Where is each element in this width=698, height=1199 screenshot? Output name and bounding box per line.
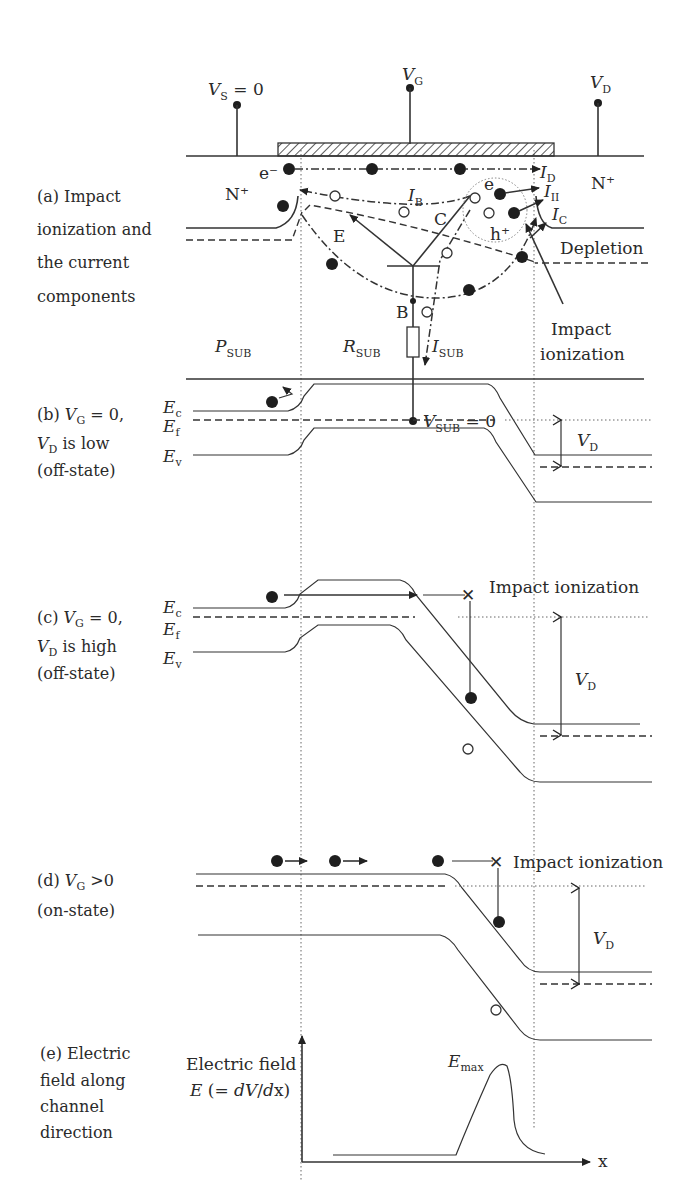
panel-a-device-cross-section: (a) Impact ionization and the current co… [37, 64, 648, 435]
substrate-contact-dot [409, 417, 417, 425]
drain-n-plus: N⁺ [591, 173, 615, 193]
panel-c-band-diagram: (c) VG = 0, VD is high (off-state) Ec Ef… [37, 577, 652, 782]
ev-label-b: Ev [162, 446, 182, 469]
electron-label: e⁻ [259, 163, 278, 183]
substrate-terminal-label: VSUB = 0 [423, 411, 496, 435]
gate-electrode [278, 143, 554, 156]
generated-electron-d [493, 916, 505, 928]
emax-label: Emax [447, 1051, 484, 1074]
ev-label-c: Ev [162, 648, 182, 671]
conduction-band-d [196, 874, 652, 972]
source-terminal-label: VS = 0 [208, 79, 264, 103]
panel-c-label-3: (off-state) [37, 664, 115, 683]
ec-label-c: Ec [162, 597, 182, 620]
panel-c-label-2: VD is high [37, 637, 117, 659]
r-sub-label: RSUB [342, 336, 381, 360]
valence-band-d [198, 935, 652, 1040]
impact-ionization-label-c: Impact ionization [489, 577, 639, 597]
impact-cross-c: ✕ [461, 585, 475, 605]
panel-d-label-2: (on-state) [37, 901, 115, 920]
panel-e-field-plot: (e) Electric field along channel directi… [40, 1036, 608, 1171]
vd-label-b: VD [577, 430, 598, 454]
panel-d-band-diagram: (d) VG >0 (on-state) ✕ Impact ionization… [37, 852, 663, 1040]
source-depletion-edge [186, 212, 302, 240]
depletion-label: Depletion [560, 238, 644, 258]
source-n-plus: N⁺ [225, 184, 249, 204]
panel-a-label-4: components [37, 287, 135, 306]
impact-ionization-label-d: Impact ionization [513, 852, 663, 872]
impact-ionization-figure: (a) Impact ionization and the current co… [0, 0, 698, 1199]
vd-label-c: VD [575, 669, 596, 693]
base-current-path [300, 190, 470, 204]
impact-ionization-pointer [526, 224, 563, 304]
substrate-resistor [407, 327, 419, 357]
generated-hole-d [491, 1005, 501, 1015]
panel-b-label-2: VD is low [37, 434, 110, 456]
electron-b [266, 396, 278, 408]
base-current-label: IB [407, 185, 423, 209]
panel-e-label-4: direction [40, 1123, 113, 1142]
reflect-arrow-b [279, 387, 292, 398]
panel-a-label-3: the current [37, 253, 130, 272]
x-axis-label: x [598, 1151, 608, 1171]
substrate-current-label: ISUB [431, 336, 464, 360]
impact-ionization-label-1: Impact [551, 319, 611, 339]
p-sub-label: PSUB [214, 336, 251, 360]
panel-c-label-1: (c) VG = 0, [37, 608, 123, 630]
y-axis-label-1: Electric field [186, 1054, 297, 1074]
electron-c [266, 591, 278, 603]
panel-a-label-1: (a) Impact [37, 187, 121, 206]
impact-cross-d: ✕ [489, 852, 503, 872]
panel-e-label-2: field along [40, 1071, 125, 1090]
y-axis-label-2: E (= dV/dx) [189, 1080, 290, 1100]
panel-a-label-2: ionization and [37, 220, 152, 239]
generated-hole-c [463, 744, 473, 754]
gate-terminal-label: VG [402, 64, 423, 88]
bjt-emitter-label: E [333, 226, 345, 246]
vd-label-d: VD [593, 928, 614, 952]
panel-b-band-diagram: (b) VG = 0, VD is low (off-state) Ec Ef … [37, 384, 652, 502]
panel-b-label-1: (b) VG = 0, [37, 405, 124, 427]
drain-terminal-label: VD [590, 72, 611, 96]
panel-e-label-3: channel [40, 1097, 104, 1116]
generated-electron-c [465, 692, 477, 704]
panel-b-label-3: (off-state) [37, 461, 115, 480]
bjt-collector-label: C [434, 209, 447, 229]
panel-d-label-1: (d) VG >0 [37, 871, 114, 893]
impact-hole-label: h⁺ [490, 224, 510, 244]
bjt-emitter-arrow [350, 215, 413, 266]
collector-current-label: IC [551, 204, 567, 227]
ef-label-c: Ef [162, 619, 180, 642]
field-curve [333, 1064, 545, 1155]
impact-ionization-label-2: ionization [540, 344, 625, 364]
impact-electron-label: e [484, 174, 494, 194]
panel-e-label-1: (e) Electric [40, 1044, 130, 1063]
bjt-base-label: B [396, 302, 409, 322]
valence-band-c [193, 625, 652, 782]
